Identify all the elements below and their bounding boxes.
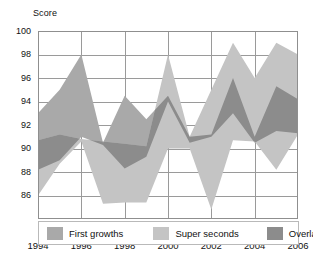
y-tick-96: 96 [5,74,31,83]
legend-label-first-growths: First growths [69,228,123,239]
legend-label-overlap: Overlap [289,228,313,239]
plot-area [38,31,298,219]
y-tick-100: 100 [5,27,31,36]
legend-label-super-seconds: Super seconds [175,228,238,239]
y-axis-title: Score [33,8,57,18]
y-tick-98: 98 [5,50,31,59]
y-tick-88: 88 [5,168,31,177]
legend-item-first-growths: First growths [47,222,123,244]
y-tick-90: 90 [5,144,31,153]
y-tick-94: 94 [5,97,31,106]
legend-item-super-seconds: Super seconds [153,222,238,244]
legend-item-overlap: Overlap [267,222,313,244]
y-tick-86: 86 [5,191,31,200]
legend-swatch-super-seconds [153,227,169,240]
chart-legend: First growths Super seconds Overlap [38,221,299,245]
legend-swatch-overlap [267,227,283,240]
area-chart-svg [38,31,298,219]
chart-figure: Score 10098969492908886 1994199619982000… [0,0,313,273]
y-tick-92: 92 [5,121,31,130]
legend-swatch-first-growths [47,227,63,240]
